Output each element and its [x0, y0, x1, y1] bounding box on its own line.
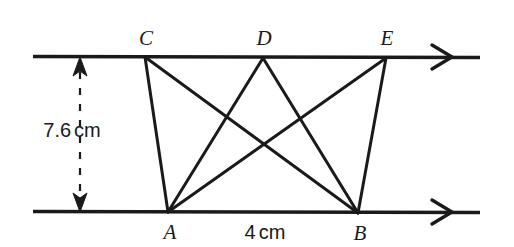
- segment-EB: [358, 58, 386, 213]
- bottom-parallel-line: [33, 200, 480, 224]
- top-line-stroke: [33, 57, 480, 58]
- bottom-line-stroke: [33, 212, 480, 213]
- geometry-figure: C D E A B 7.6cm 4cm: [0, 0, 514, 247]
- segment-CB: [145, 57, 358, 213]
- vertex-label-B: B: [354, 223, 367, 244]
- height-dimension-unit: cm: [74, 119, 101, 141]
- height-dimension-down-arrowhead-icon: [73, 193, 87, 212]
- height-dimension-label: 7.6cm: [43, 120, 100, 140]
- base-dimension-value: 4: [245, 221, 256, 243]
- vertex-label-A: A: [164, 222, 177, 243]
- vertex-label-C: C: [139, 28, 153, 49]
- base-dimension-unit: cm: [259, 221, 286, 243]
- vertex-label-E: E: [381, 28, 394, 49]
- base-dimension-label: 4cm: [245, 222, 286, 242]
- segment-DA: [168, 58, 263, 212]
- triangle-segments: [145, 57, 386, 213]
- vertex-label-D: D: [256, 28, 271, 49]
- height-dimension-value: 7.6: [43, 119, 71, 141]
- segment-CA: [145, 57, 168, 212]
